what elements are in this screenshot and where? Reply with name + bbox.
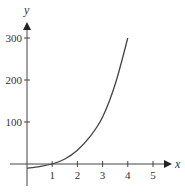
x-tick-label: 1 <box>49 169 55 181</box>
y-ticks: 100200300 <box>6 32 31 128</box>
x-tick-label: 2 <box>75 169 81 181</box>
x-tick-label: 5 <box>150 169 156 181</box>
x-axis-label: x <box>174 157 181 171</box>
y-tick-label: 200 <box>6 74 23 86</box>
data-curve <box>27 38 128 168</box>
x-tick-label: 3 <box>100 169 106 181</box>
y-axis-label: y <box>23 3 30 17</box>
y-tick-label: 100 <box>6 116 23 128</box>
y-tick-label: 300 <box>6 32 23 44</box>
x-tick-label: 4 <box>125 169 131 181</box>
chart: 12345 100200300 x y <box>0 0 185 196</box>
